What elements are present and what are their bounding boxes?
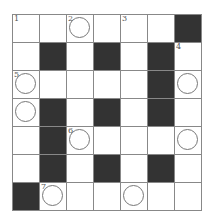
grid-cell[interactable]: 5 bbox=[13, 71, 39, 98]
grid-cell[interactable] bbox=[94, 183, 120, 210]
grid-cell[interactable] bbox=[148, 183, 174, 210]
grid-cell[interactable] bbox=[175, 155, 201, 182]
grid-cell[interactable] bbox=[67, 71, 93, 98]
grid-cell[interactable]: 3 bbox=[121, 15, 147, 42]
black-cell bbox=[40, 99, 66, 126]
grid-cell[interactable] bbox=[175, 127, 201, 154]
grid-cell[interactable] bbox=[40, 15, 66, 42]
circle-marker-icon bbox=[177, 129, 198, 150]
clue-number: 3 bbox=[122, 15, 127, 23]
black-cell bbox=[148, 71, 174, 98]
grid-cell[interactable] bbox=[148, 127, 174, 154]
grid-cell[interactable] bbox=[121, 99, 147, 126]
black-cell bbox=[148, 155, 174, 182]
circle-marker-icon bbox=[177, 73, 198, 94]
black-cell bbox=[148, 99, 174, 126]
grid-cell[interactable] bbox=[148, 15, 174, 42]
grid-cell[interactable] bbox=[94, 15, 120, 42]
circle-marker-icon bbox=[123, 185, 144, 206]
clue-number: 5 bbox=[14, 71, 19, 79]
grid-cell[interactable] bbox=[40, 71, 66, 98]
grid-cell[interactable] bbox=[67, 43, 93, 70]
circle-marker-icon bbox=[15, 101, 36, 122]
grid-cell[interactable] bbox=[121, 43, 147, 70]
grid-cell[interactable] bbox=[94, 71, 120, 98]
black-cell bbox=[40, 43, 66, 70]
black-cell bbox=[94, 99, 120, 126]
grid-cell[interactable]: 6 bbox=[67, 127, 93, 154]
grid-cell[interactable] bbox=[13, 127, 39, 154]
black-cell bbox=[175, 15, 201, 42]
black-cell bbox=[40, 155, 66, 182]
black-cell bbox=[13, 183, 39, 210]
grid-cell[interactable]: 4 bbox=[175, 43, 201, 70]
grid-cell[interactable] bbox=[121, 127, 147, 154]
black-cell bbox=[40, 127, 66, 154]
grid-cell[interactable]: 7 bbox=[40, 183, 66, 210]
clue-number: 4 bbox=[176, 43, 181, 51]
clue-number: 6 bbox=[68, 127, 73, 135]
clue-number: 7 bbox=[41, 183, 46, 191]
black-cell bbox=[94, 155, 120, 182]
crossword-grid: 1234567 bbox=[12, 14, 202, 211]
grid-cell[interactable] bbox=[175, 71, 201, 98]
grid-cell[interactable] bbox=[67, 155, 93, 182]
grid-cell[interactable] bbox=[13, 99, 39, 126]
grid-cell[interactable] bbox=[175, 99, 201, 126]
grid-cell[interactable] bbox=[67, 183, 93, 210]
grid-cell[interactable] bbox=[13, 155, 39, 182]
grid-cell[interactable]: 1 bbox=[13, 15, 39, 42]
black-cell bbox=[148, 43, 174, 70]
grid-cell[interactable] bbox=[121, 155, 147, 182]
grid-cell[interactable] bbox=[94, 127, 120, 154]
clue-number: 1 bbox=[14, 15, 19, 23]
grid-cell[interactable] bbox=[13, 43, 39, 70]
black-cell bbox=[94, 43, 120, 70]
grid-cell[interactable] bbox=[121, 183, 147, 210]
grid-cell[interactable] bbox=[67, 99, 93, 126]
clue-number: 2 bbox=[68, 15, 73, 23]
grid-cell[interactable] bbox=[175, 183, 201, 210]
grid-cell[interactable] bbox=[121, 71, 147, 98]
grid-cell[interactable]: 2 bbox=[67, 15, 93, 42]
